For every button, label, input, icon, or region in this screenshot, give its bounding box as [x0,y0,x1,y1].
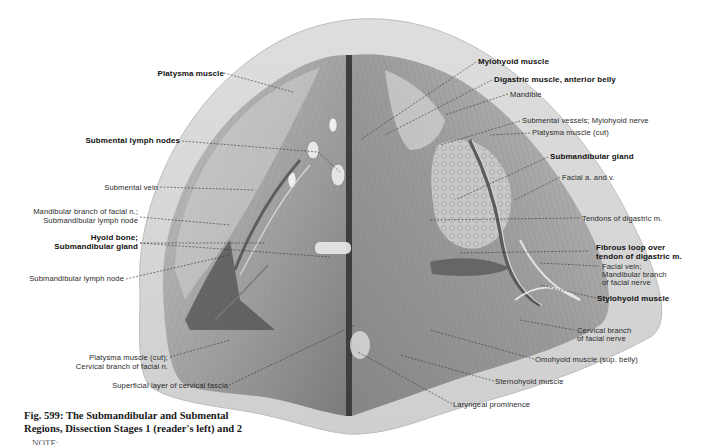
label-cervical-branch-facial-nerve: of facial nerve [577,334,626,343]
label-stylohyoid-muscle: Stylohyoid muscle [597,294,669,303]
label-submental-lymph-nodes: Submental lymph nodes [60,136,180,145]
figure-caption: Fig. 599: The Submandibular and Submenta… [24,409,242,435]
label-mandible: Mandible [510,90,542,99]
label-submandibular-gland-left: Submandibular gland [10,242,138,251]
label-submental-vein: Submental vein [80,183,158,192]
label-digastric-anterior-belly: Digastric muscle, anterior belly [494,75,616,84]
label-tendons-digastric: Tendons of digastric m. [582,214,662,223]
caption-line-2: Regions, Dissection Stages 1 (reader's l… [24,422,242,435]
label-superficial-cervical-fascia: Superficial layer of cervical fascia [70,381,228,390]
label-laryngeal-prominence: Laryngeal prominence [453,400,530,409]
label-hyoid-bone: Hyoid bone; [10,233,138,242]
label-submandibular-gland-right: Submandibular gland [550,152,634,161]
label-platysma-muscle: Platysma muscle [140,69,224,78]
label-submental-vessels-mylohyoid-nerve: Submental vessels; Mylohyoid nerve [522,116,649,125]
label-submandibular-lymph-node: Submandibular lymph node [4,274,124,283]
label-cervical-branch-facial-n-left: Cervical branch of facial n. [50,362,168,371]
label-platysma-muscle-cut-right: Platysma muscle (cut) [532,128,609,137]
label-submandibular-lymph-node-upper: Submandibular lymph node [10,216,138,225]
label-fibrous-loop: Fibrous loop over [596,243,665,252]
caption-line-1: Fig. 599: The Submandibular and Submenta… [24,409,242,422]
figure-note-truncated: NOTE: [32,438,59,445]
label-mandibular-branch-facial-n: Mandibular branch of facial n.; [10,207,138,216]
label-platysma-muscle-cut-left: Platysma muscle (cut); [50,353,168,362]
label-of-facial-nerve: of facial nerve [602,278,651,287]
label-fibrous-loop-tendon: tendon of digastric m. [596,252,682,261]
label-facial-artery-vein: Facial a. and v. [562,173,615,182]
label-omohyoid-muscle: Omohyoid muscle (sup. belly) [535,355,638,364]
label-mylohyoid-muscle: Mylohyoid muscle [478,57,549,66]
label-sternohyoid-muscle: Sternohyoid muscle [495,377,564,386]
